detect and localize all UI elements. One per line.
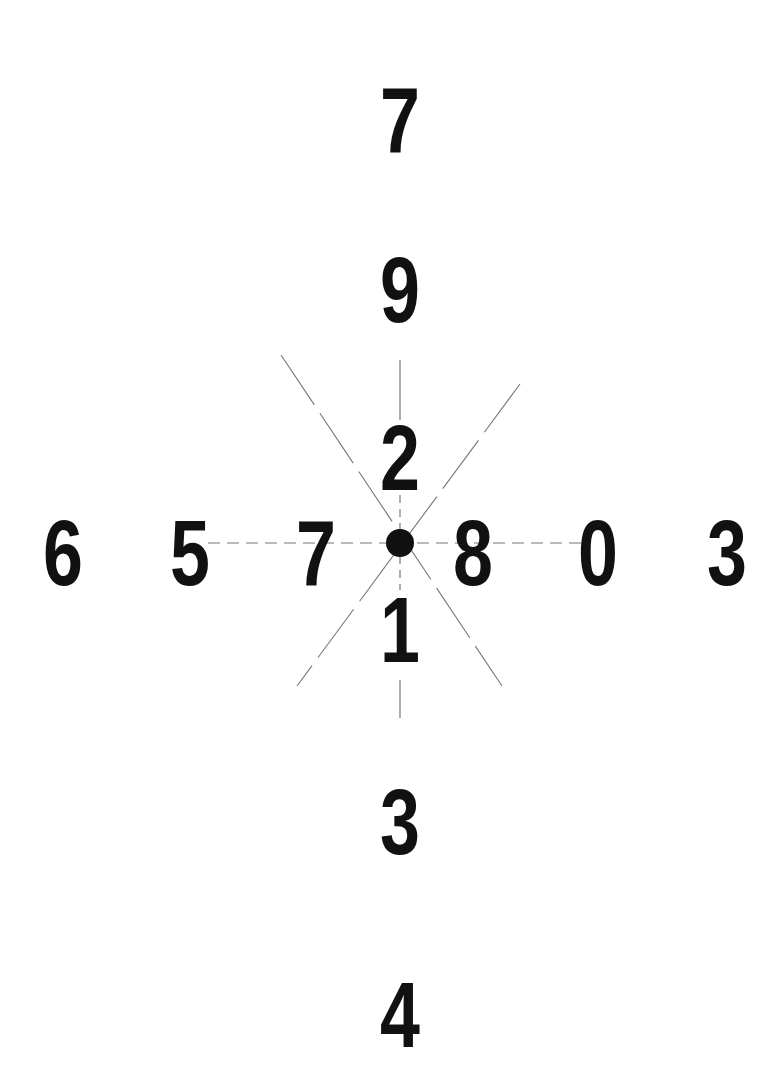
horizontal-digit-2: 5 [170,507,210,599]
vertical-digit-1: 7 [380,74,420,166]
vertical-digit-2: 9 [380,244,420,336]
horizontal-digit-5: 0 [578,507,618,599]
horizontal-digit-1: 6 [43,507,83,599]
vertical-digit-4: 1 [380,584,420,676]
vertical-digit-3: 2 [380,412,420,504]
horizontal-digit-3: 7 [296,507,336,599]
horizontal-digit-6: 3 [707,507,747,599]
vertical-digit-6: 4 [380,969,420,1061]
horizontal-digit-4: 8 [453,507,493,599]
fixation-dot [386,529,414,557]
vertical-digit-5: 3 [380,776,420,868]
fixation-chart: 7 9 2 1 3 4 6 5 7 8 0 3 [0,0,777,1089]
